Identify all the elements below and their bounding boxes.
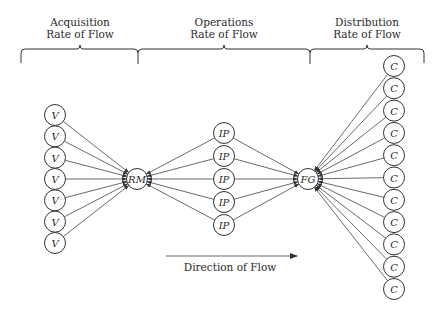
section-header-distribution: Distribution Rate of Flow <box>333 16 401 40</box>
section-header-acquisition: Acquisition Rate of Flow <box>46 16 114 40</box>
customer-node: C <box>384 189 405 210</box>
in-process-node: IP <box>214 192 235 213</box>
flow-edge <box>318 158 384 176</box>
customer-node-label: C <box>390 83 398 94</box>
vendor-node: V <box>45 190 66 211</box>
flow-edge <box>318 178 383 179</box>
customer-node: C <box>384 279 405 300</box>
in-process-node: IP <box>214 215 235 236</box>
section-title-line2: Rate of Flow <box>190 28 258 40</box>
brace-distribution <box>310 45 424 63</box>
direction-label: Direction of Flow <box>184 261 276 273</box>
customer-node: C <box>384 100 405 121</box>
flow-edge <box>65 160 127 176</box>
customer-node-label: C <box>390 239 398 250</box>
customer-node: C <box>384 212 405 233</box>
section-title-line1: Distribution <box>335 16 399 28</box>
customer-node: C <box>384 56 405 77</box>
vendor-node: V <box>45 211 66 232</box>
in-process-node: IP <box>214 169 235 190</box>
flow-edge <box>317 184 384 218</box>
customer-node-label: C <box>390 173 398 184</box>
flow-edge <box>64 184 127 217</box>
vendor-node: V <box>45 147 66 168</box>
flow-edge <box>146 184 214 220</box>
flow-edge <box>63 185 128 236</box>
flow-edge <box>147 159 214 177</box>
customer-node-label: C <box>390 128 398 139</box>
flow-edge <box>65 182 127 198</box>
in-process-node-label: IP <box>218 151 230 162</box>
customer-node: C <box>384 122 405 143</box>
customer-node-label: C <box>390 150 398 161</box>
flow-edge <box>315 186 386 259</box>
section-title-line2: Rate of Flow <box>333 28 401 40</box>
customer-node: C <box>384 78 405 99</box>
finished-goods-node: FG <box>298 169 319 190</box>
in-process-node: IP <box>214 123 235 144</box>
customer-node-label: C <box>390 61 398 72</box>
vendor-node: V <box>45 105 66 126</box>
flow-edge <box>316 185 385 238</box>
section-title-line1: Operations <box>195 16 254 28</box>
section-title-line2: Rate of Flow <box>46 28 114 40</box>
vendor-node: V <box>45 169 66 190</box>
flow-edge <box>147 182 214 200</box>
customer-node-label: C <box>390 262 398 273</box>
in-process-node-label: IP <box>218 220 230 231</box>
brace-operations <box>138 45 310 64</box>
customer-node: C <box>384 167 405 188</box>
section-title-line1: Acquisition <box>49 16 110 28</box>
supply-flow-diagram: Acquisition Rate of Flow Operations Rate… <box>0 0 438 315</box>
flow-edge <box>63 121 128 172</box>
vendor-node: V <box>45 126 66 147</box>
brace-acquisition <box>21 45 138 64</box>
raw-materials-node-label: RM <box>127 174 147 185</box>
in-process-node-label: IP <box>218 174 230 185</box>
customer-node: C <box>384 145 405 166</box>
finished-goods-node-label: FG <box>300 174 316 185</box>
in-process-node-label: IP <box>218 197 230 208</box>
customer-node: C <box>384 234 405 255</box>
flow-edge <box>233 138 299 174</box>
section-header-operations: Operations Rate of Flow <box>190 16 258 40</box>
flow-edge <box>234 159 298 176</box>
customer-node: C <box>384 256 405 277</box>
in-process-node: IP <box>214 146 235 167</box>
customer-node-label: C <box>390 284 398 295</box>
customer-node-label: C <box>390 195 398 206</box>
flow-edge <box>64 141 127 174</box>
flow-edge <box>317 138 384 174</box>
flow-edge <box>314 187 387 280</box>
customer-node-label: C <box>390 106 398 117</box>
customer-node-label: C <box>390 217 398 228</box>
flow-edge <box>234 182 298 199</box>
flow-edge <box>146 138 214 174</box>
vendor-node: V <box>45 233 66 254</box>
flow-edge <box>316 117 386 172</box>
in-process-node-label: IP <box>218 128 230 139</box>
flow-edge <box>233 184 299 220</box>
raw-materials-node: RM <box>127 169 148 190</box>
